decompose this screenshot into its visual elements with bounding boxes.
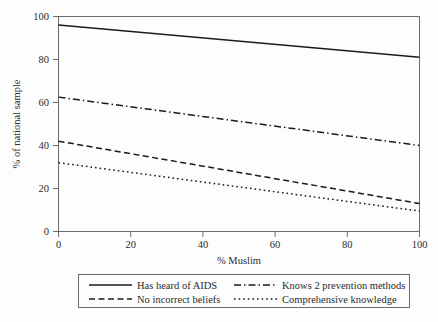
x-tick-label-20: 20 [125, 239, 136, 250]
series-lines [59, 25, 420, 211]
x-tick-label-0: 0 [56, 239, 61, 250]
series-line-no-incorrect-beliefs [59, 141, 420, 203]
x-axis-tick-labels: 0 20 40 60 80 100 [56, 239, 428, 250]
y-tick-label-100: 100 [33, 11, 49, 22]
y-axis-tick-labels: 0 20 40 60 80 100 [33, 11, 49, 237]
chart-legend: Has heard of AIDS Knows 2 prevention met… [79, 275, 410, 308]
x-tick-label-80: 80 [342, 239, 353, 250]
y-tick-label-60: 60 [39, 97, 50, 108]
legend-label-has-heard-of-aids: Has heard of AIDS [137, 280, 217, 291]
y-tick-label-20: 20 [39, 183, 50, 194]
legend-label-knows-2-prevention-methods: Knows 2 prevention methods [282, 280, 405, 291]
series-line-comprehensive-knowledge [59, 163, 420, 211]
legend-label-comprehensive-knowledge: Comprehensive knowledge [282, 294, 397, 305]
line-chart: 0 20 40 60 80 100 0 20 40 60 80 100 % Mu… [0, 0, 438, 322]
chart-figure: 0 20 40 60 80 100 0 20 40 60 80 100 % Mu… [0, 0, 438, 322]
x-tick-label-60: 60 [270, 239, 281, 250]
series-line-knows-2-prevention-methods [59, 97, 420, 145]
x-tick-label-100: 100 [412, 239, 428, 250]
y-axis-ticks [53, 17, 59, 232]
x-axis-ticks [59, 232, 420, 238]
y-tick-label-0: 0 [44, 226, 49, 237]
series-line-has-heard-of-aids [59, 25, 420, 57]
y-tick-label-80: 80 [39, 54, 50, 65]
y-axis-title: % of national sample [11, 79, 22, 168]
legend-label-no-incorrect-beliefs: No incorrect beliefs [137, 294, 220, 305]
x-tick-label-40: 40 [198, 239, 209, 250]
plot-frame [59, 17, 420, 232]
y-tick-label-40: 40 [39, 140, 50, 151]
x-axis-title: % Muslim [217, 255, 261, 266]
